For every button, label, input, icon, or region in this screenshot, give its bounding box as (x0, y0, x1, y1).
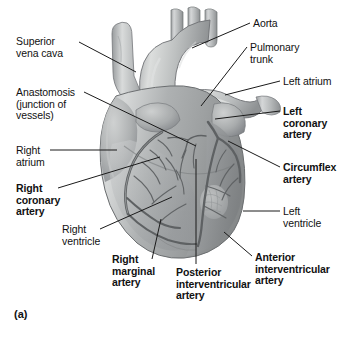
label-anterior-interventricular-artery: Anterior interventricular artery (255, 252, 330, 287)
label-left-coronary-artery: Left coronary artery (283, 106, 327, 141)
heart-body-group (100, 86, 245, 258)
leader-line-left-atrium (225, 81, 280, 95)
leader-line-anterior-interventricular-artery (224, 232, 252, 256)
label-left-ventricle: Left ventricle (283, 206, 321, 229)
label-left-atrium: Left atrium (283, 76, 332, 88)
label-aorta: Aorta (253, 18, 278, 30)
label-superior-vena-cava: Superior vena cava (16, 36, 63, 59)
label-right-marginal-artery: Right marginal artery (112, 254, 155, 289)
label-anastomosis: Anastomosis (junction of vessels) (16, 87, 75, 122)
label-right-atrium: Right atrium (16, 145, 45, 168)
label-right-ventricle: Right ventricle (62, 224, 100, 247)
label-pulmonary-trunk: Pulmonary trunk (250, 42, 299, 65)
label-posterior-interventricular-artery: Posterior interventricular artery (176, 267, 251, 302)
label-right-coronary-artery: Right coronary artery (16, 183, 60, 218)
panel-letter: (a) (14, 308, 27, 320)
label-circumflex-artery: Circumflex artery (283, 162, 336, 185)
heart-anatomy-figure: Superior vena cavaAnastomosis (junction … (0, 0, 356, 337)
